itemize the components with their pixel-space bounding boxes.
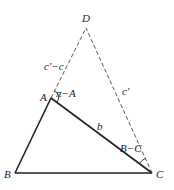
label-cd-length: c′: [122, 85, 130, 97]
label-c: C: [156, 168, 164, 180]
label-ac-length: b: [97, 120, 103, 132]
label-ad-length: c′−c: [44, 60, 64, 72]
geometry-diagram: D A B C c′−c c′ b π−A B−C: [0, 0, 174, 190]
label-b: B: [4, 168, 11, 180]
label-d: D: [81, 12, 90, 24]
label-angle-c: B−C: [120, 142, 142, 154]
label-angle-a: π−A: [56, 87, 76, 99]
label-a: A: [39, 91, 47, 103]
angle-arc-c: [139, 158, 146, 164]
segment-ab: [15, 98, 51, 173]
segment-cd-dashed: [86, 28, 152, 173]
segment-ac: [51, 98, 152, 173]
